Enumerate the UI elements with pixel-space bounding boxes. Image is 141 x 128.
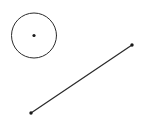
circle-center-point <box>32 34 35 37</box>
canvas-background <box>0 0 141 128</box>
segment-endpoint-upper-right <box>130 43 133 46</box>
segment-endpoint-lower-left <box>29 111 32 114</box>
geometry-diagram <box>0 0 141 128</box>
figure-canvas <box>0 0 141 128</box>
